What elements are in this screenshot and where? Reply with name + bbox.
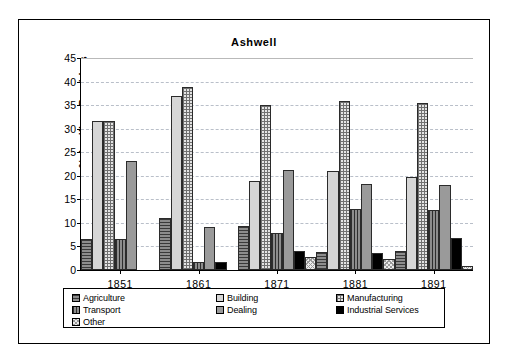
bar-group-bars xyxy=(316,58,394,270)
bar-dealing[interactable] xyxy=(283,170,294,270)
legend-item-dealing[interactable]: Dealing xyxy=(216,304,258,315)
y-axis-tick-label: 10 xyxy=(46,217,76,229)
chart-screenshot: Ashwell % Ancillary Providers 0510152025… xyxy=(0,0,508,364)
legend-swatch-icon xyxy=(216,306,224,314)
bar-dealing[interactable] xyxy=(439,185,450,270)
bar-group-bars xyxy=(395,58,473,270)
bar-group-bars xyxy=(238,58,316,270)
legend-item-agriculture[interactable]: Agriculture xyxy=(72,292,125,303)
legend-item-other[interactable]: Other xyxy=(72,316,125,327)
x-axis-tick-mark xyxy=(277,270,278,274)
legend-label: Industrial Services xyxy=(347,305,419,315)
bar-group: 1881 xyxy=(316,58,394,270)
bar-group: 1851 xyxy=(81,58,159,270)
bar-manufacturing[interactable] xyxy=(103,121,114,270)
y-axis-tick-label: 0 xyxy=(46,264,76,276)
bar-building[interactable] xyxy=(92,121,103,270)
bar-building[interactable] xyxy=(327,171,338,270)
legend-swatch-icon xyxy=(72,306,80,314)
bar-group-bars xyxy=(159,58,237,270)
bar-manufacturing[interactable] xyxy=(260,105,271,270)
bar-building[interactable] xyxy=(406,177,417,270)
y-axis-tick-label: 20 xyxy=(46,170,76,182)
bar-industrial-services[interactable] xyxy=(451,238,462,270)
legend-item-transport[interactable]: Transport xyxy=(72,304,125,315)
legend-swatch-icon xyxy=(72,318,80,326)
bar-industrial-services[interactable] xyxy=(372,253,383,270)
bar-other[interactable] xyxy=(462,266,473,270)
legend-column: ManufacturingIndustrial Services xyxy=(336,292,419,316)
legend-label: Dealing xyxy=(227,305,257,315)
legend-column: AgricultureTransportOther xyxy=(72,292,125,328)
legend-item-manufacturing[interactable]: Manufacturing xyxy=(336,292,419,303)
bar-group-bars xyxy=(81,58,159,270)
y-axis-tick-label: 40 xyxy=(46,76,76,88)
bar-building[interactable] xyxy=(249,181,260,270)
bar-dealing[interactable] xyxy=(361,184,372,270)
y-axis-tick-label: 25 xyxy=(46,146,76,158)
legend-item-industrial-services[interactable]: Industrial Services xyxy=(336,304,419,315)
bar-transport[interactable] xyxy=(271,233,282,270)
plot-area: 051015202530354045 18511861187118811891 xyxy=(80,58,473,271)
chart-frame: Ashwell % Ancillary Providers 0510152025… xyxy=(18,19,490,344)
x-axis-tick-mark xyxy=(199,270,200,274)
legend-swatch-icon xyxy=(72,294,80,302)
bar-agriculture[interactable] xyxy=(238,226,249,270)
legend-label: Building xyxy=(227,293,258,303)
y-axis-tick-label: 45 xyxy=(46,52,76,64)
y-axis-tick-label: 30 xyxy=(46,123,76,135)
bar-agriculture[interactable] xyxy=(81,239,92,270)
bar-transport[interactable] xyxy=(115,239,126,270)
legend-swatch-icon xyxy=(336,306,344,314)
bar-group: 1861 xyxy=(159,58,237,270)
y-axis-tick-label: 35 xyxy=(46,99,76,111)
bar-manufacturing[interactable] xyxy=(339,101,350,270)
legend-item-building[interactable]: Building xyxy=(216,292,258,303)
legend-swatch-icon xyxy=(336,294,344,302)
bar-transport[interactable] xyxy=(428,210,439,270)
bar-building[interactable] xyxy=(171,96,182,270)
bar-manufacturing[interactable] xyxy=(182,87,193,270)
legend-column: BuildingDealing xyxy=(216,292,258,316)
legend-swatch-icon xyxy=(216,294,224,302)
y-axis-tick-mark xyxy=(77,270,81,271)
bar-agriculture[interactable] xyxy=(316,252,327,270)
x-axis-tick-mark xyxy=(434,270,435,274)
bar-industrial-services[interactable] xyxy=(215,262,226,270)
bar-other[interactable] xyxy=(383,259,394,270)
bar-industrial-services[interactable] xyxy=(294,251,305,270)
y-axis-tick-label: 5 xyxy=(46,240,76,252)
bar-group: 1891 xyxy=(395,58,473,270)
y-axis-tick-label: 15 xyxy=(46,193,76,205)
bar-other[interactable] xyxy=(305,257,316,270)
bar-transport[interactable] xyxy=(350,209,361,270)
legend-label: Agriculture xyxy=(83,293,125,303)
bar-dealing[interactable] xyxy=(204,227,215,270)
bar-transport[interactable] xyxy=(193,262,204,270)
bar-manufacturing[interactable] xyxy=(417,103,428,270)
bar-group: 1871 xyxy=(238,58,316,270)
chart-title: Ashwell xyxy=(19,36,489,48)
legend-label: Transport xyxy=(83,305,120,315)
legend-label: Manufacturing xyxy=(347,293,403,303)
chart-legend: AgricultureTransportOtherBuildingDealing… xyxy=(63,288,445,328)
legend-label: Other xyxy=(83,317,105,327)
x-axis-tick-mark xyxy=(120,270,121,274)
x-axis-tick-mark xyxy=(355,270,356,274)
bar-agriculture[interactable] xyxy=(395,251,406,270)
bar-dealing[interactable] xyxy=(126,161,137,270)
bar-agriculture[interactable] xyxy=(159,218,170,270)
